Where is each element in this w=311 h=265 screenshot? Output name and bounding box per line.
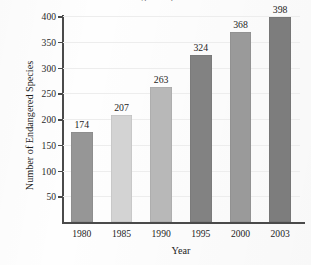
y-axis-tick-label: 50 [46, 191, 56, 202]
x-axis-tick-label: 1980 [72, 228, 91, 239]
gridline [62, 42, 300, 43]
bar-rect [230, 32, 251, 222]
y-axis-tick-label: 200 [42, 114, 56, 125]
bar-2000[interactable]: 3682000 [230, 16, 251, 222]
y-axis-tick-mark [58, 42, 63, 44]
chart-title: Number of Endangered Species in the U.S. [0, 0, 311, 1]
x-axis-tick-label: 2003 [271, 228, 290, 239]
y-axis-tick-label: 300 [42, 62, 56, 73]
bar-2003[interactable]: 3982003 [269, 16, 290, 222]
bar-value-label: 174 [74, 119, 89, 130]
y-axis-title: Number of Endangered Species [24, 36, 35, 216]
bar-value-label: 398 [273, 4, 288, 15]
y-axis-tick-label: 350 [42, 36, 56, 47]
y-axis-tick-label: 250 [42, 88, 56, 99]
x-axis-spine [62, 222, 305, 224]
bar-chart-figure: Number of Endangered Species in the U.S.… [0, 0, 311, 265]
bar-rect [111, 115, 132, 222]
bar-rect [71, 132, 92, 222]
x-axis-tick-label: 1985 [112, 228, 131, 239]
x-axis-tick-label: 1990 [152, 228, 171, 239]
y-axis-tick-label: 150 [42, 139, 56, 150]
y-axis-tick-mark [58, 93, 63, 95]
x-axis-title: Year [62, 245, 300, 256]
y-axis-tick-mark [58, 68, 63, 70]
bar-1995[interactable]: 3241995 [190, 16, 211, 222]
gridline [62, 68, 300, 69]
bar-value-label: 207 [114, 102, 129, 113]
bar-1985[interactable]: 2071985 [111, 16, 132, 222]
y-axis-tick-label: 400 [42, 11, 56, 22]
plot-area: 50100150200250300350400 1741980207198526… [62, 16, 300, 222]
bar-rect [269, 17, 290, 222]
bar-value-label: 263 [154, 74, 169, 85]
bar-value-label: 368 [233, 19, 248, 30]
bar-rect [150, 87, 171, 222]
bar-1990[interactable]: 2631990 [150, 16, 171, 222]
y-axis-tick-mark [58, 145, 63, 147]
y-axis-tick-label: 100 [42, 165, 56, 176]
x-axis-tick-label: 2000 [231, 228, 250, 239]
y-axis-tick-mark [58, 196, 63, 198]
gridline [62, 171, 300, 172]
bar-1980[interactable]: 1741980 [71, 16, 92, 222]
y-axis-tick-mark [58, 119, 63, 121]
bar-value-label: 324 [193, 42, 208, 53]
gridline [62, 16, 300, 17]
gridline [62, 93, 300, 94]
y-axis-tick-mark [58, 16, 63, 18]
bar-rect [190, 55, 211, 222]
gridline [62, 196, 300, 197]
gridline [62, 119, 300, 120]
gridline [62, 145, 300, 146]
y-axis-tick-mark [58, 171, 63, 173]
x-axis-tick-label: 1995 [191, 228, 210, 239]
